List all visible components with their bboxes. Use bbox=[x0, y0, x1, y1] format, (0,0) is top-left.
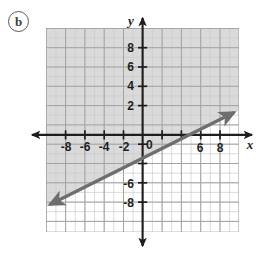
y-tick-label--6: -6 bbox=[123, 177, 134, 191]
x-tick-label--4: -4 bbox=[99, 140, 110, 154]
y-tick-label-6: 6 bbox=[127, 60, 134, 74]
y-tick-label-8: 8 bbox=[127, 41, 134, 55]
coordinate-plane: y x 0 -8 -6 -4 -2 6 8 8 6 4 2 -6 -8 bbox=[0, 0, 271, 257]
x-axis-label: x bbox=[246, 137, 254, 152]
y-tick-label--8: -8 bbox=[123, 196, 134, 210]
y-axis-label: y bbox=[126, 13, 134, 28]
x-tick-label--2: -2 bbox=[119, 140, 130, 154]
origin-label: 0 bbox=[146, 138, 153, 152]
figure-label-b: b bbox=[8, 11, 29, 32]
graph-figure: b bbox=[0, 0, 271, 257]
x-tick-label--8: -8 bbox=[61, 140, 72, 154]
y-tick-label-2: 2 bbox=[127, 99, 134, 113]
x-tick-label-6: 6 bbox=[197, 141, 204, 155]
x-tick-label--6: -6 bbox=[80, 140, 91, 154]
x-tick-label-8: 8 bbox=[217, 141, 224, 155]
y-tick-label-4: 4 bbox=[127, 79, 134, 93]
